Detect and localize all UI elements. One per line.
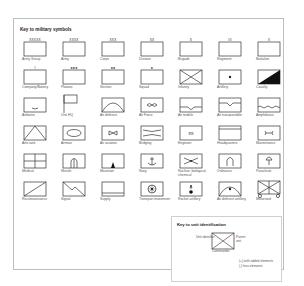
symbol-label: Bridging	[136, 142, 178, 146]
bridging-icon	[138, 120, 176, 142]
engineer-icon: m	[177, 120, 215, 142]
symbol-label: Regiment	[214, 58, 256, 62]
symbol-label: Squad	[136, 86, 178, 90]
symbol-label: Rocket artillery	[175, 198, 217, 202]
svg-text:●: ●	[151, 66, 153, 70]
svg-text:m: m	[189, 130, 194, 136]
symbol-label: Engineer	[175, 142, 217, 146]
platoon-icon: ●●●	[60, 64, 98, 86]
airborne-icon	[21, 92, 59, 114]
symbol-medical: Medical	[21, 148, 59, 176]
symbol-air-force: Air Force	[138, 92, 176, 120]
svg-text:●●: ●●	[111, 66, 116, 70]
maintenance-icon	[255, 120, 293, 142]
symbol-air-aviation: Air aviation	[99, 120, 137, 148]
symbol-label: Army	[58, 58, 100, 62]
symbol-battalion: II Battalion	[255, 36, 293, 64]
symbol-label: Company/Battery	[19, 86, 61, 90]
nbc-icon	[177, 148, 215, 170]
symbol-label: Army Group	[19, 58, 61, 62]
symbol-label: Mountain	[97, 170, 139, 174]
unit-identification-key: Key to unit identification Unit identifi…	[171, 216, 282, 282]
symbol-label: Unit HQ	[58, 114, 100, 118]
svg-text:XXX: XXX	[110, 38, 118, 42]
symbol-label: Air transportable	[214, 114, 256, 118]
artillery-icon	[216, 64, 254, 86]
symbol-label: Brigade	[175, 58, 217, 62]
symbol-label: Navy	[136, 170, 178, 174]
symbol-label: Ordnance	[214, 170, 256, 174]
commander-label: Commander	[212, 250, 230, 254]
symbol-supply: Supply	[99, 176, 137, 204]
air-defence-artillery-icon	[216, 176, 254, 198]
symbol-missile: Missile	[60, 148, 98, 176]
symbol-cavalry: Cavalry	[255, 64, 293, 92]
army-icon: XXXX	[60, 36, 98, 58]
symbol-army: XXXX Army	[60, 36, 98, 64]
symbol-armour: Armour	[60, 120, 98, 148]
symbol-label: Division	[136, 58, 178, 62]
rocket-artillery-icon	[177, 176, 215, 198]
symbol-label: Maintenance	[253, 142, 295, 146]
missile-icon	[60, 148, 98, 170]
symbol-label: Headquarters	[214, 142, 256, 146]
section-icon: ●●	[99, 64, 137, 86]
key-title: Key to military symbols	[20, 27, 72, 32]
symbol-air-defence: Air defence	[99, 92, 137, 120]
battalion-icon: II	[255, 36, 293, 58]
symbol-label: Air mobile	[175, 114, 217, 118]
symbol-rocket-artillery: Rocket artillery	[177, 176, 215, 204]
parachute-icon	[255, 148, 293, 170]
symbol-navy: Navy	[138, 148, 176, 176]
amphibious-icon	[255, 92, 293, 114]
cavalry-icon	[255, 64, 293, 86]
squad-icon: ●	[138, 64, 176, 86]
symbol-amphibious: Amphibious	[255, 92, 293, 120]
symbol-label: Parachute	[253, 170, 295, 174]
symbol-label: Platoon	[58, 86, 100, 90]
symbol-nbc: Nuclear, biological, chemical	[177, 148, 215, 176]
military-symbols-key: Key to military symbols XXXXX Army Group…	[13, 18, 284, 270]
division-icon: XX	[138, 36, 176, 58]
regiment-icon: III	[216, 36, 254, 58]
unit-identifier-label: Unit identifier	[196, 236, 211, 240]
symbol-corps: XXX Corps	[99, 36, 137, 64]
symbol-infantry: Infantry	[177, 64, 215, 92]
symbol-label: Air Force	[136, 114, 178, 118]
symbol-unit-hq: Unit HQ	[60, 92, 98, 120]
symbol-label: Air aviation	[97, 142, 139, 146]
symbol-label: Transport movement	[136, 198, 178, 202]
symbol-label: Armour	[58, 142, 100, 146]
symbol-artillery: Artillery	[216, 64, 254, 92]
svg-text:●●●: ●●●	[70, 66, 77, 70]
symbol-label: Missile	[58, 170, 100, 174]
symbol-brigade: X Brigade	[177, 36, 215, 64]
svg-text:X: X	[190, 38, 193, 42]
signal-icon	[60, 176, 98, 198]
unit-hq-icon	[60, 92, 98, 114]
symbol-squad: ● Squad	[138, 64, 176, 92]
svg-text:II: II	[268, 38, 270, 42]
symbol-label: Airborne	[19, 114, 61, 118]
armour-icon	[60, 120, 98, 142]
corps-icon: XXX	[99, 36, 137, 58]
symbol-maintenance: Maintenance	[255, 120, 293, 148]
motorised-icon	[255, 176, 293, 198]
headquarters-icon	[216, 120, 254, 142]
symbol-signal: Signal	[60, 176, 98, 204]
symbol-motorised: Motorised	[255, 176, 293, 204]
symbol-label: Air defence artillery	[214, 198, 256, 202]
symbol-label: Corps	[97, 58, 139, 62]
anti-tank-icon	[21, 120, 59, 142]
symbol-section: ●● Section	[99, 64, 137, 92]
symbol-label: Medical	[19, 170, 61, 174]
ordnance-icon	[216, 148, 254, 170]
company-battery-icon: I	[21, 64, 59, 86]
symbol-label: Artillery	[214, 86, 256, 90]
svg-text:III: III	[228, 38, 231, 42]
symbol-label: Air defence	[97, 114, 139, 118]
svg-text:XX: XX	[150, 38, 155, 42]
transport-movement-icon	[138, 176, 176, 198]
symbol-label: Amphibious	[253, 114, 295, 118]
air-mobile-icon	[177, 92, 215, 114]
